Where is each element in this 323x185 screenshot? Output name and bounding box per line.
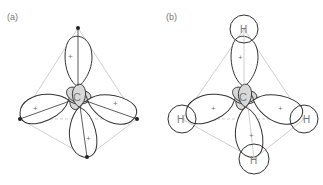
panel-b-label: (b) <box>166 12 177 22</box>
panel-a-label: (a) <box>7 12 18 22</box>
svg-text:+: + <box>33 104 38 113</box>
svg-text:H: H <box>240 24 247 35</box>
svg-text:H: H <box>250 155 257 166</box>
carbon-label: C <box>73 91 81 103</box>
svg-text:+: + <box>238 53 243 62</box>
svg-text:+: + <box>249 131 254 140</box>
panel-b: (b) H H H H <box>166 12 318 174</box>
panel-a: (a) + + <box>7 12 140 159</box>
svg-text:+: + <box>278 104 283 113</box>
svg-text:+: + <box>113 99 118 108</box>
svg-text:H: H <box>177 114 184 125</box>
carbon-label-b: C <box>239 91 247 103</box>
orbital-diagram: (a) + + <box>0 0 323 185</box>
svg-text:+: + <box>211 104 216 113</box>
svg-text:H: H <box>303 114 310 125</box>
svg-text:+: + <box>86 134 91 143</box>
svg-text:+: + <box>68 52 73 61</box>
